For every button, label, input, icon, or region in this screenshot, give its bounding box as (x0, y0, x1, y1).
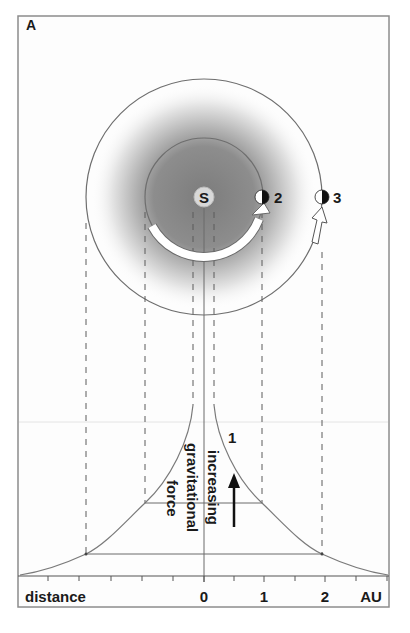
planet-2-label: 2 (274, 189, 282, 206)
gravity-diagram: A S 2 3 (0, 0, 410, 633)
curve-label: 1 (228, 429, 236, 446)
tick-label-0: 0 (200, 588, 208, 605)
label-gravitational: gravitational (184, 443, 201, 532)
sun: S (194, 187, 214, 207)
panel-label: A (26, 17, 36, 33)
axis-unit: AU (360, 588, 382, 605)
sun-label: S (199, 189, 209, 206)
label-increasing: increasing (205, 450, 222, 525)
tick-label-1: 1 (260, 588, 268, 605)
level-point (321, 553, 324, 556)
tick-label-2: 2 (321, 588, 329, 605)
axis-title: distance (25, 588, 86, 605)
planet-3 (315, 190, 329, 204)
planet-3-label: 3 (333, 189, 341, 206)
planet-2 (255, 190, 269, 204)
label-force: force (164, 480, 181, 517)
level-point (85, 553, 88, 556)
